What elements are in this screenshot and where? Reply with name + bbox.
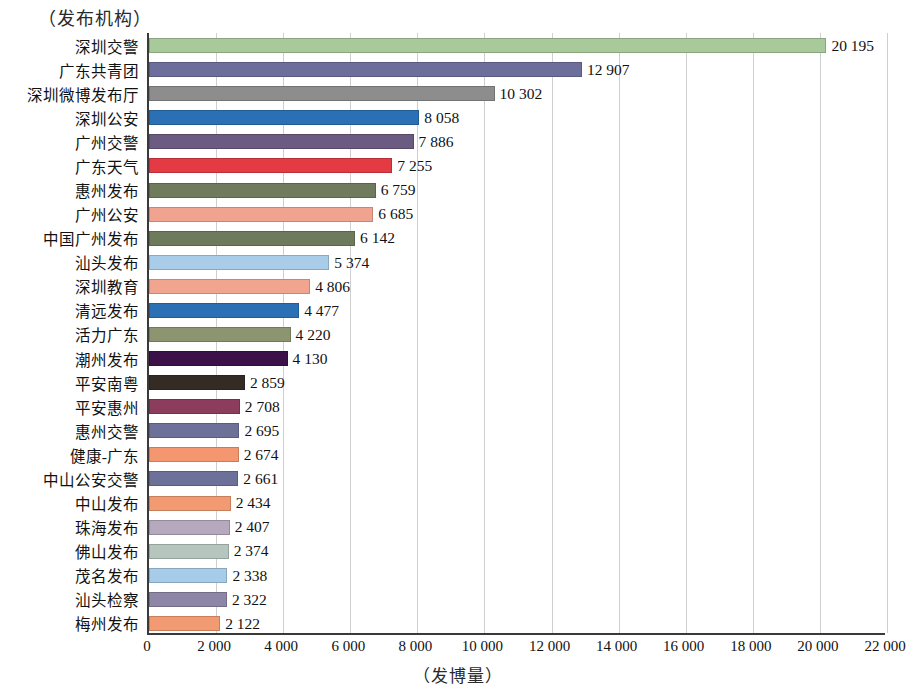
plot-area: 20 19512 90710 3028 0587 8867 2556 7596 … (147, 33, 885, 635)
bar-row: 6 685 (149, 202, 885, 227)
bar (149, 471, 238, 486)
category-label: 中山发布 (75, 491, 139, 516)
category-label: 汕头发布 (75, 250, 139, 275)
bar-value-label: 2 374 (234, 543, 269, 559)
category-label: 广州交警 (75, 129, 139, 154)
bar-row: 4 806 (149, 274, 885, 299)
category-label: 中山公安交警 (43, 466, 139, 491)
category-label: 深圳微博发布厅 (27, 81, 139, 106)
x-tick-label: 22 000 (864, 638, 905, 655)
x-tick-label: 2 000 (197, 638, 231, 655)
bar-value-label: 2 661 (243, 471, 278, 487)
bar-value-label: 20 195 (831, 38, 874, 54)
bar-row: 8 058 (149, 105, 885, 130)
category-label: 茂名发布 (75, 563, 139, 588)
bar (149, 279, 310, 294)
bar-row: 2 695 (149, 418, 885, 443)
bar-value-label: 6 685 (378, 206, 413, 222)
bar-value-label: 2 434 (236, 495, 271, 511)
bar-row: 6 759 (149, 177, 885, 202)
bar (149, 231, 355, 246)
category-axis-labels: 深圳交警广东共青团深圳微博发布厅深圳公安广州交警广东天气惠州发布广州公安中国广州… (0, 33, 143, 635)
bar (149, 399, 240, 414)
category-label: 深圳交警 (75, 33, 139, 58)
x-tick-label: 4 000 (264, 638, 298, 655)
bar-row: 2 708 (149, 394, 885, 419)
category-label: 广州公安 (75, 202, 139, 227)
bar (149, 134, 414, 149)
bar-value-label: 6 759 (381, 182, 416, 198)
bar (149, 255, 329, 270)
bar (149, 568, 227, 583)
bar-row: 12 907 (149, 57, 885, 82)
category-label: 平安惠州 (75, 394, 139, 419)
category-label: 中国广州发布 (43, 226, 139, 251)
bar (149, 327, 291, 342)
x-axis-ticks: 02 0004 0006 0008 00010 00012 00014 0001… (0, 638, 915, 664)
bar-row: 4 220 (149, 322, 885, 347)
bar-row: 10 302 (149, 81, 885, 106)
category-label: 广东天气 (75, 153, 139, 178)
bar-row: 2 338 (149, 563, 885, 588)
x-tick-label: 0 (143, 638, 151, 655)
bar-row: 6 142 (149, 226, 885, 251)
bar (149, 616, 220, 631)
bar-row: 2 434 (149, 491, 885, 516)
bar-row: 4 477 (149, 298, 885, 323)
bar (149, 110, 419, 125)
bar-row: 2 407 (149, 515, 885, 540)
bar-value-label: 2 122 (225, 616, 260, 632)
bar-value-label: 10 302 (500, 86, 543, 102)
bar-value-label: 2 407 (235, 519, 270, 535)
bar-value-label: 4 477 (304, 303, 339, 319)
bar (149, 447, 239, 462)
x-tick-label: 18 000 (730, 638, 771, 655)
bar (149, 183, 376, 198)
category-label: 珠海发布 (75, 515, 139, 540)
bar-value-label: 2 338 (232, 568, 267, 584)
bar (149, 496, 231, 511)
bar-value-label: 2 695 (244, 423, 279, 439)
bar-value-label: 12 907 (587, 62, 630, 78)
category-label: 活力广东 (75, 322, 139, 347)
bar-row: 2 859 (149, 370, 885, 395)
bar-value-label: 7 886 (419, 134, 454, 150)
category-label: 惠州交警 (75, 418, 139, 443)
category-label: 平安南粤 (75, 370, 139, 395)
bar-value-label: 5 374 (334, 255, 369, 271)
bar-row: 2 374 (149, 539, 885, 564)
bar (149, 423, 239, 438)
bar-row: 2 122 (149, 611, 885, 636)
bar-value-label: 2 708 (245, 399, 280, 415)
bar-value-label: 4 130 (293, 351, 328, 367)
bar (149, 303, 299, 318)
gridline (887, 33, 888, 633)
bar (149, 62, 582, 77)
bar-row: 4 130 (149, 346, 885, 371)
category-label: 惠州发布 (75, 177, 139, 202)
bar (149, 520, 230, 535)
bar (149, 375, 245, 390)
bar (149, 592, 227, 607)
bar (149, 544, 229, 559)
bar-value-label: 8 058 (424, 110, 459, 126)
bar-row: 2 322 (149, 587, 885, 612)
x-tick-label: 20 000 (797, 638, 838, 655)
category-label: 深圳公安 (75, 105, 139, 130)
bar-value-label: 7 255 (397, 158, 432, 174)
category-label: 清远发布 (75, 298, 139, 323)
category-label: 潮州发布 (75, 346, 139, 371)
x-tick-label: 10 000 (462, 638, 503, 655)
category-label: 梅州发布 (75, 611, 139, 636)
bar-row: 2 661 (149, 466, 885, 491)
x-tick-label: 12 000 (529, 638, 570, 655)
y-axis-caption: （发布机构） (38, 4, 152, 30)
x-tick-label: 8 000 (398, 638, 432, 655)
category-label: 深圳教育 (75, 274, 139, 299)
bar (149, 86, 495, 101)
category-label: 佛山发布 (75, 539, 139, 564)
x-tick-label: 16 000 (663, 638, 704, 655)
bar-row: 7 886 (149, 129, 885, 154)
x-tick-label: 14 000 (596, 638, 637, 655)
category-label: 汕头检察 (75, 587, 139, 612)
